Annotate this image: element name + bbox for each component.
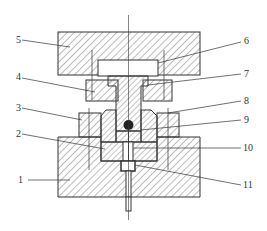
label-6: 6 [244, 36, 249, 46]
label-5: 5 [16, 35, 21, 45]
part-6-backing-plate [98, 60, 158, 76]
label-8: 8 [244, 96, 249, 106]
label-7: 7 [244, 69, 249, 79]
part-3-ring-left [79, 113, 101, 137]
part-10-bore [123, 142, 133, 161]
label-4: 4 [16, 72, 21, 82]
label-9: 9 [244, 115, 249, 125]
label-1: 1 [18, 175, 23, 185]
part-11-ejector-head [121, 161, 135, 171]
part-9-die-sleeve-right [141, 110, 157, 142]
cross-section-diagram [0, 0, 267, 231]
label-3: 3 [16, 103, 21, 113]
label-11: 11 [243, 180, 253, 190]
part-9-die-sleeve-left [101, 110, 116, 142]
label-2: 2 [16, 129, 21, 139]
label-10: 10 [243, 143, 253, 153]
